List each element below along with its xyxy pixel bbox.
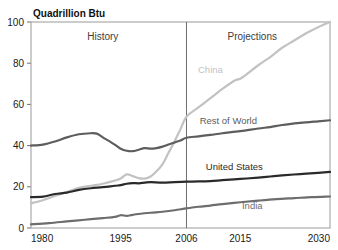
region-annotations: HistoryProjections <box>87 31 277 42</box>
x-tick-label: 1995 <box>110 233 133 244</box>
series-lines <box>31 22 330 224</box>
x-axis-ticks: 19801995200620152030 <box>31 233 330 244</box>
annotation-projections: Projections <box>228 31 277 42</box>
series-line-india <box>31 196 330 224</box>
y-tick-label: 40 <box>13 140 25 151</box>
y-tick-label: 20 <box>13 181 25 192</box>
series-label-india: India <box>242 200 263 211</box>
y-tick-label: 60 <box>13 99 25 110</box>
chart-container: Quadrillion Btu 020406080100 19801995200… <box>0 0 338 250</box>
y-axis-ticks: 020406080100 <box>7 17 31 234</box>
chart-title: Quadrillion Btu <box>33 8 105 19</box>
x-tick-label: 2030 <box>308 233 331 244</box>
annotation-history: History <box>87 31 118 42</box>
series-labels: ChinaRest of WorldUnited StatesIndia <box>198 64 263 211</box>
energy-consumption-line-chart: Quadrillion Btu 020406080100 19801995200… <box>0 0 338 250</box>
series-label-united-states: United States <box>206 161 263 172</box>
series-line-rest-of-world <box>31 120 330 151</box>
x-tick-label: 1980 <box>31 233 54 244</box>
series-label-china: China <box>198 64 224 75</box>
y-tick-label: 100 <box>7 17 24 28</box>
series-line-united-states <box>31 172 330 197</box>
y-tick-label: 80 <box>13 58 25 69</box>
series-label-rest-of-world: Rest of World <box>200 115 257 126</box>
x-tick-label: 2015 <box>229 233 252 244</box>
y-tick-label: 0 <box>18 223 24 234</box>
x-tick-label: 2006 <box>175 233 198 244</box>
